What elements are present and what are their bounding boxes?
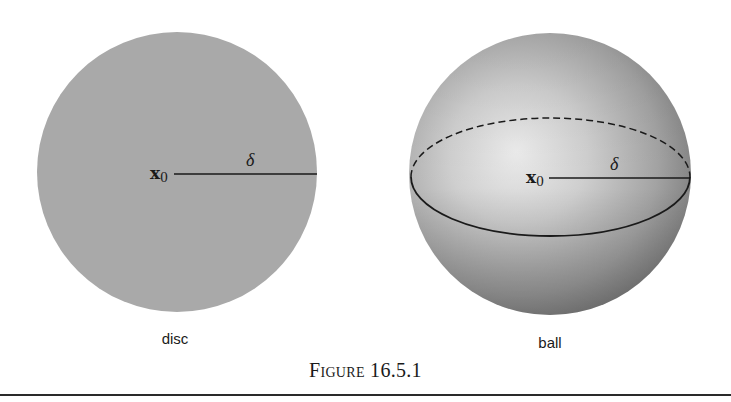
ball-radius-label: δ (610, 154, 619, 174)
disc-shape (37, 32, 317, 312)
disc-panel: x0 δ disc (37, 32, 317, 347)
disc-label: disc (162, 330, 189, 347)
ball-shade-overlay (409, 33, 691, 315)
ball-panel: x0 δ ball (409, 33, 691, 351)
figure-caption: Figure 16.5.1 (0, 358, 731, 382)
bottom-rule (0, 394, 731, 396)
caption-number: 16.5.1 (370, 359, 422, 381)
caption-word: Figure (309, 359, 365, 381)
disc-radius-label: δ (246, 150, 255, 170)
figure-16-5-1: x0 δ disc x0 δ ball Figure 16.5.1 (0, 0, 731, 402)
figure-canvas: x0 δ disc x0 δ ball (0, 0, 731, 402)
ball-label: ball (538, 334, 561, 351)
